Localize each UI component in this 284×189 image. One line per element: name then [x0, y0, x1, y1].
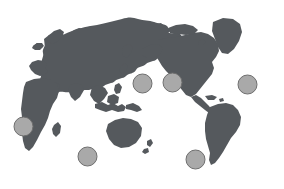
- world-map-canvas: [0, 0, 284, 189]
- marker-south-pacific[interactable]: [186, 150, 205, 169]
- marker-north-atlantic[interactable]: [238, 75, 257, 94]
- marker-north-pacific-west[interactable]: [133, 74, 152, 93]
- world-map-figure: World map with circular region markers: [0, 0, 284, 189]
- marker-north-pacific-central[interactable]: [163, 73, 182, 92]
- marker-eastern-atlantic[interactable]: [14, 117, 33, 136]
- marker-indian-ocean[interactable]: [78, 147, 97, 166]
